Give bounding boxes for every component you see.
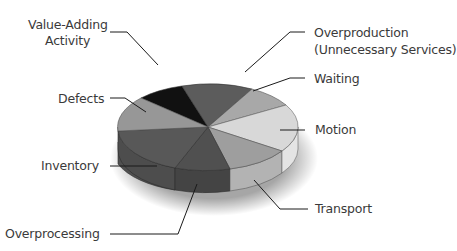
label-overproduction-line2: (Unnecessary Services): [314, 42, 457, 57]
label-overproduction-line1: Overproduction: [314, 25, 408, 40]
leader-overproduction: [245, 32, 305, 72]
label-transport: Transport: [315, 201, 372, 216]
label-value-adding-line2: Activity: [45, 33, 90, 48]
label-overprocessing: Overprocessing: [5, 226, 100, 241]
side-overprocessing: [175, 168, 230, 193]
label-inventory: Inventory: [41, 158, 99, 173]
label-waiting: Waiting: [314, 71, 360, 86]
leader-value-adding: [110, 32, 158, 65]
leader-waiting: [253, 78, 305, 91]
label-defects: Defects: [58, 91, 104, 106]
label-value-adding-line1: Value-Adding: [28, 17, 108, 32]
label-motion: Motion: [315, 122, 356, 137]
